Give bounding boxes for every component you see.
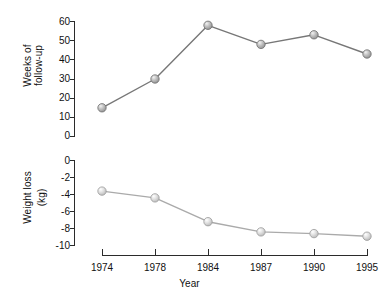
plot-svg	[0, 0, 379, 294]
data-point-bottom-1978	[151, 194, 159, 202]
data-point-bottom-1984	[204, 218, 212, 226]
bottom-series-weight-loss	[98, 187, 371, 240]
data-point-top-1995	[363, 50, 371, 58]
top-y-axis	[70, 22, 75, 137]
data-point-bottom-1974	[98, 187, 106, 195]
data-point-top-1978	[151, 75, 159, 83]
data-point-bottom-1995	[363, 232, 371, 240]
data-point-top-1990	[310, 31, 318, 39]
top-series-weeks-of-followup	[98, 21, 371, 112]
figure-container: Weeks of follow-up 60 50 40 30 20 10 0 W…	[0, 0, 379, 294]
data-point-bottom-1990	[310, 229, 318, 237]
bottom-y-axis	[70, 161, 75, 246]
data-point-top-1984	[204, 21, 212, 29]
x-axis	[103, 249, 368, 256]
data-point-top-1974	[98, 104, 106, 112]
data-point-bottom-1987	[257, 228, 265, 236]
data-point-top-1987	[257, 40, 265, 48]
